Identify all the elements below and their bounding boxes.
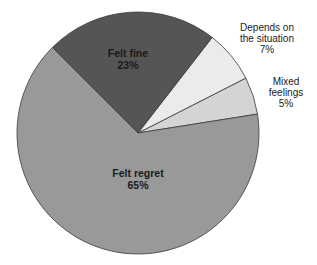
label-mixed-name-1: Mixed xyxy=(258,76,314,87)
label-felt-fine: Felt fine 23% xyxy=(88,48,168,71)
label-felt-fine-name: Felt fine xyxy=(88,48,168,60)
label-depends-name-1: Depends on xyxy=(222,22,312,33)
label-mixed: Mixed feelings 5% xyxy=(258,76,314,109)
label-felt-regret: Felt regret 65% xyxy=(88,168,188,191)
label-depends-name-2: the situation xyxy=(222,33,312,44)
label-mixed-name-2: feelings xyxy=(258,87,314,98)
label-felt-regret-value: 65% xyxy=(88,180,188,192)
label-depends: Depends on the situation 7% xyxy=(222,22,312,55)
label-mixed-value: 5% xyxy=(258,98,314,109)
label-felt-regret-name: Felt regret xyxy=(88,168,188,180)
label-felt-fine-value: 23% xyxy=(88,60,168,72)
label-depends-value: 7% xyxy=(222,44,312,55)
